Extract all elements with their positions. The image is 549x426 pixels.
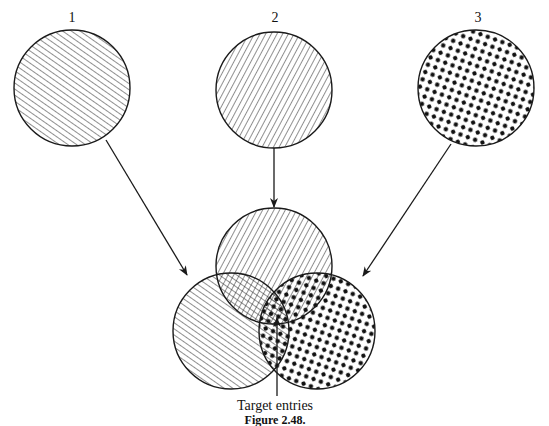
arrow-set-1 <box>106 140 187 275</box>
target-entries-label: Target entries <box>237 398 313 413</box>
set-3-label: 3 <box>475 10 482 25</box>
set-2-circle <box>216 32 332 148</box>
venn-diagram-figure: 1 2 3 <box>0 0 549 426</box>
figure-caption: Figure 2.48. <box>245 413 306 426</box>
set-1-circle <box>14 30 130 146</box>
set-3-circle <box>418 30 534 146</box>
set-1-label: 1 <box>69 10 76 25</box>
venn-overlap-group <box>173 208 375 389</box>
set-2-label: 2 <box>272 10 279 25</box>
arrow-set-3 <box>363 144 451 276</box>
